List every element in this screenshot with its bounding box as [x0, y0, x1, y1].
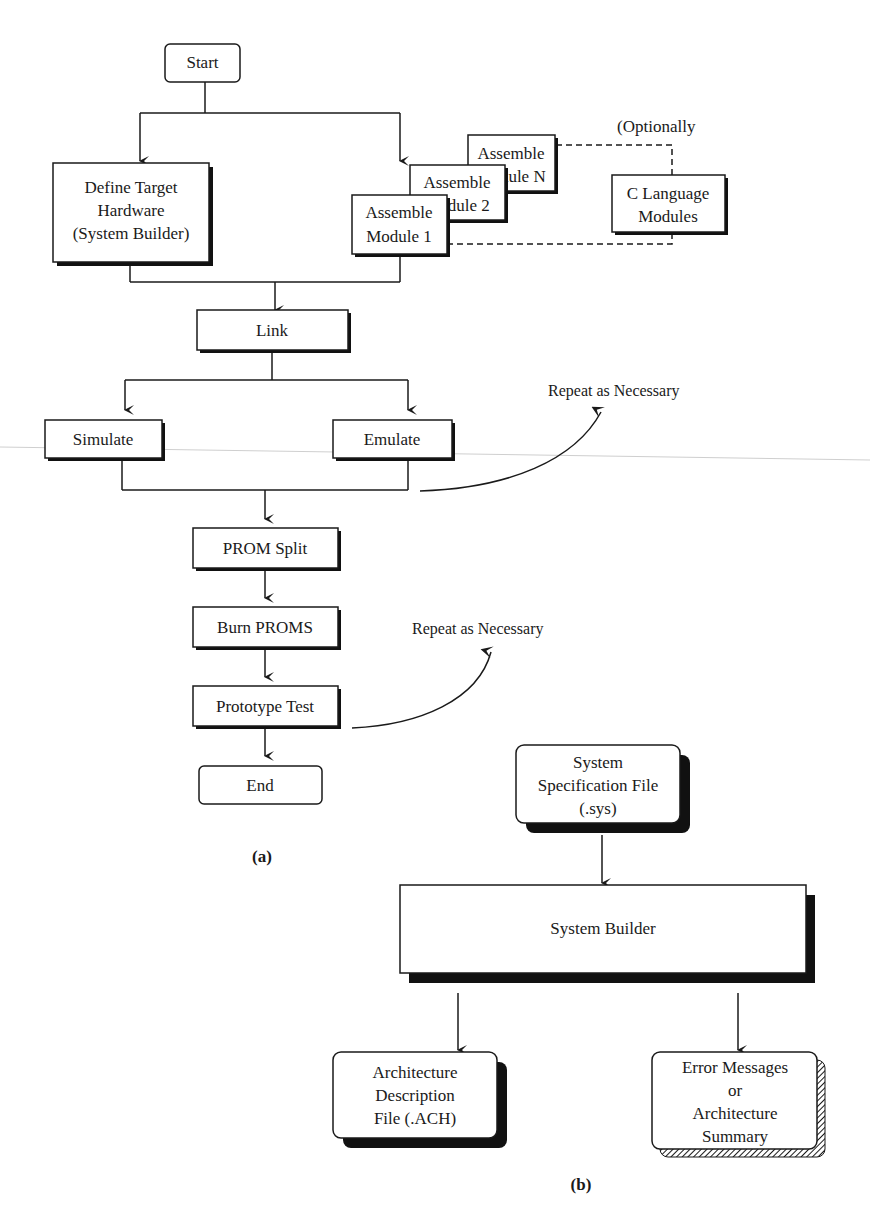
node-error-line4: Summary [702, 1127, 769, 1146]
node-c-language-modules[interactable]: C Language Modules [612, 175, 728, 235]
node-burn-proms[interactable]: Burn PROMS [193, 607, 341, 650]
optionally-note: (Optionally [617, 117, 696, 136]
node-assemble-n-line1: Assemble [477, 144, 544, 163]
node-prototype-test[interactable]: Prototype Test [193, 686, 341, 729]
node-error-line1: Error Messages [682, 1058, 788, 1077]
flowchart-figure: Start Define Target Hardware (System Bui… [0, 0, 870, 1217]
node-end[interactable]: End [199, 766, 322, 804]
node-prom-split-label: PROM Split [223, 539, 308, 558]
node-prototype-test-label: Prototype Test [216, 697, 314, 716]
node-system-spec-line2: Specification File [538, 776, 658, 795]
node-emulate[interactable]: Emulate [333, 420, 455, 461]
node-emulate-label: Emulate [364, 430, 421, 449]
node-burn-proms-label: Burn PROMS [217, 618, 313, 637]
node-define-target-line3: (System Builder) [73, 224, 190, 243]
node-system-spec-line3: (.sys) [579, 799, 616, 818]
node-system-builder[interactable]: System Builder [400, 885, 815, 983]
node-error-messages-or-summary[interactable]: Error Messages or Architecture Summary [652, 1052, 825, 1157]
node-assemble-2-line1: Assemble [423, 173, 490, 192]
node-architecture-description-file[interactable]: Architecture Description File (.ACH) [333, 1052, 507, 1148]
node-assemble-module-1[interactable]: Assemble Module 1 [352, 195, 450, 257]
node-define-target-line1: Define Target [84, 178, 177, 197]
node-prom-split[interactable]: PROM Split [193, 528, 341, 571]
node-start-label: Start [186, 53, 218, 72]
node-define-target-line2: Hardware [97, 201, 164, 220]
repeat-as-necessary-label-2: Repeat as Necessary [412, 620, 544, 638]
caption-b: (b) [571, 1175, 592, 1194]
node-simulate[interactable]: Simulate [45, 420, 165, 461]
node-end-label: End [246, 776, 274, 795]
node-link[interactable]: Link [197, 310, 351, 353]
node-define-target-hardware[interactable]: Define Target Hardware (System Builder) [53, 163, 213, 266]
node-simulate-label: Simulate [73, 430, 133, 449]
node-assemble-1-line2: Module 1 [366, 227, 432, 246]
caption-a: (a) [252, 847, 272, 866]
node-assemble-1-line1: Assemble [365, 203, 432, 222]
node-error-line2: or [728, 1081, 743, 1100]
node-start[interactable]: Start [165, 44, 240, 82]
node-c-language-line1: C Language [627, 184, 710, 203]
node-arch-desc-line3: File (.ACH) [374, 1109, 456, 1128]
node-link-label: Link [256, 321, 289, 340]
node-error-line3: Architecture [693, 1104, 778, 1123]
node-arch-desc-line1: Architecture [373, 1063, 458, 1082]
node-system-specification-file[interactable]: System Specification File (.sys) [516, 745, 690, 833]
node-c-language-line2: Modules [638, 207, 698, 226]
repeat-as-necessary-label-1: Repeat as Necessary [548, 382, 680, 400]
node-system-spec-line1: System [573, 753, 623, 772]
node-arch-desc-line2: Description [375, 1086, 455, 1105]
node-system-builder-label: System Builder [550, 919, 656, 938]
